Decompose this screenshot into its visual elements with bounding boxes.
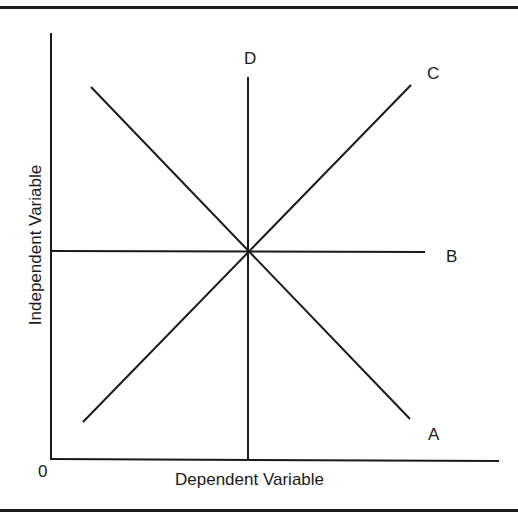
line-a (91, 87, 410, 419)
y-axis-label: Independent Variable (26, 165, 46, 325)
diagram-canvas (0, 0, 518, 514)
line-label-a: A (428, 426, 439, 443)
line-label-d: D (244, 50, 256, 67)
line-b (51, 251, 425, 252)
line-label-c: C (427, 65, 439, 82)
line-label-b: B (446, 248, 457, 265)
x-axis-label: Dependent Variable (175, 471, 324, 488)
x-axis (50, 459, 499, 461)
origin-label: 0 (38, 463, 47, 480)
